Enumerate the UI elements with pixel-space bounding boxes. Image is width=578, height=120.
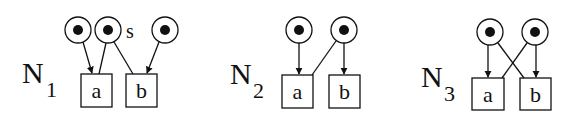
place-n1-p3	[152, 17, 178, 43]
place-n2-p2	[331, 17, 357, 43]
svg-text:a: a	[483, 82, 493, 107]
net-n2-label: N	[230, 57, 252, 90]
arc-n1-p2-a	[99, 43, 106, 74]
token-icon	[294, 25, 304, 35]
net-n1-subscript: 1	[46, 77, 57, 102]
arc-n2-p2-a	[312, 41, 336, 75]
net-n2: N 2 a b	[230, 17, 360, 108]
svg-text:a: a	[92, 78, 102, 103]
net-n1: N 1 s a b	[22, 17, 178, 107]
net-n3-subscript: 3	[444, 81, 455, 106]
petri-net-diagram: N 1 s a b N 2	[0, 0, 578, 120]
svg-text:b: b	[339, 79, 350, 104]
place-n1-p1	[65, 17, 91, 43]
net-n2-subscript: 2	[253, 78, 264, 103]
token-icon	[530, 27, 540, 37]
token-icon	[73, 25, 83, 35]
place-n1-p2	[95, 17, 121, 43]
token-icon	[160, 25, 170, 35]
token-icon	[485, 27, 495, 37]
transition-n1-b: b	[126, 74, 157, 107]
transition-n2-a: a	[282, 75, 313, 108]
svg-text:b: b	[530, 82, 541, 107]
svg-text:a: a	[293, 79, 303, 104]
arc-n3-p1-b	[498, 43, 524, 78]
arc-n1-p3-b	[147, 42, 159, 73]
place-n3-p1	[477, 19, 503, 45]
token-icon	[103, 25, 113, 35]
transition-n3-a: a	[472, 78, 504, 110]
place-n3-p2	[522, 19, 548, 45]
transition-n2-b: b	[329, 75, 360, 108]
transition-n3-b: b	[520, 78, 551, 110]
net-n3-label: N	[421, 60, 443, 93]
transition-n1-a: a	[81, 74, 112, 107]
token-icon	[339, 25, 349, 35]
arc-n1-p2-b	[114, 42, 133, 74]
net-n3: N 3 a b	[421, 19, 551, 110]
net-n1-label: N	[22, 56, 44, 89]
place-n1-p2-label: s	[126, 20, 134, 42]
svg-text:b: b	[136, 78, 147, 103]
place-n2-p1	[286, 17, 312, 43]
arc-n3-p2-a	[502, 43, 527, 78]
arc-n1-p1-a	[83, 42, 92, 73]
